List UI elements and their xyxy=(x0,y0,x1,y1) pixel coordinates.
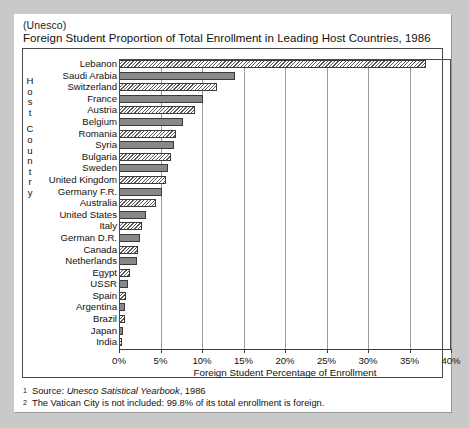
category-label: Spain xyxy=(0,291,117,301)
x-tick xyxy=(202,349,203,353)
category-label: Switzerland xyxy=(0,82,117,92)
footnote-marker: 2 xyxy=(23,397,27,409)
category-label: Germany F.R. xyxy=(0,187,117,197)
category-label: France xyxy=(0,94,117,104)
source-attribution: (Unesco) xyxy=(23,19,66,31)
category-label: India xyxy=(0,337,117,347)
category-label: Egypt xyxy=(0,268,117,278)
x-axis: 0%5%10%15%20%25%30%35%40% xyxy=(119,349,451,350)
x-tick-label: 10% xyxy=(192,355,211,366)
page-title: Foreign Student Proportion of Total Enro… xyxy=(23,32,431,44)
x-tick-label: 15% xyxy=(234,355,253,366)
x-tick xyxy=(119,349,120,353)
x-tick-label: 5% xyxy=(154,355,168,366)
x-tick-label: 30% xyxy=(358,355,377,366)
x-tick-label: 40% xyxy=(441,355,460,366)
category-label: Saudi Arabia xyxy=(0,71,117,81)
chart-card: (Unesco) Foreign Student Proportion of T… xyxy=(14,14,451,412)
category-label: Brazil xyxy=(0,314,117,324)
category-label: German D.R. xyxy=(0,233,117,243)
category-label: Romania xyxy=(0,129,117,139)
category-label: Austria xyxy=(0,105,117,115)
x-tick-label: 25% xyxy=(317,355,336,366)
category-label: Sweden xyxy=(0,163,117,173)
footnote-text: Source: xyxy=(32,386,67,396)
category-label: Japan xyxy=(0,326,117,336)
x-tick xyxy=(410,349,411,353)
x-axis-title: Foreign Student Percentage of Enrollment xyxy=(119,367,451,378)
category-label: United States xyxy=(0,210,117,220)
x-tick-label: 20% xyxy=(275,355,294,366)
category-label: Australia xyxy=(0,198,117,208)
footnotes: 1Source: Unesco Satistical Yearbook, 198… xyxy=(23,385,443,409)
category-label: United Kingdom xyxy=(0,175,117,185)
x-tick xyxy=(244,349,245,353)
footnote: 1Source: Unesco Satistical Yearbook, 198… xyxy=(23,385,443,397)
category-label: Belgium xyxy=(0,117,117,127)
category-label: Lebanon xyxy=(0,59,117,69)
x-tick xyxy=(327,349,328,353)
category-label: USSR xyxy=(0,279,117,289)
x-tick xyxy=(285,349,286,353)
footnote-suffix: , 1986 xyxy=(180,386,206,396)
category-label: Bulgaria xyxy=(0,152,117,162)
category-label: Argentina xyxy=(0,302,117,312)
footnote: 2The Vatican City is not included: 99.8%… xyxy=(23,397,443,409)
category-label: Canada xyxy=(0,245,117,255)
x-tick-label: 35% xyxy=(400,355,419,366)
x-tick-label: 0% xyxy=(112,355,126,366)
plot-frame xyxy=(119,59,451,349)
gridline xyxy=(451,59,452,349)
footnote-marker: 1 xyxy=(23,385,27,397)
x-tick xyxy=(161,349,162,353)
footnote-title: Unesco Satistical Yearbook xyxy=(67,386,180,396)
x-tick xyxy=(368,349,369,353)
category-label: Netherlands xyxy=(0,256,117,266)
plot-area: LebanonSaudi ArabiaSwitzerlandFranceAust… xyxy=(119,59,451,349)
footnote-text: The Vatican City is not included: 99.8% … xyxy=(32,398,324,408)
category-label: Italy xyxy=(0,221,117,231)
x-tick xyxy=(451,349,452,353)
category-label: Syria xyxy=(0,140,117,150)
